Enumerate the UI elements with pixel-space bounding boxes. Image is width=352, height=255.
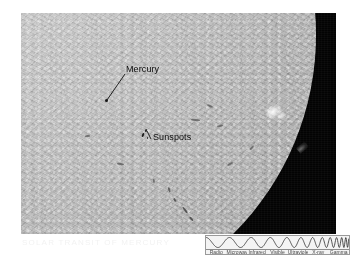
- sunspots-leader-line: [147, 131, 151, 139]
- spectrum-label: Radio: [206, 249, 226, 255]
- spectrum-label: Microwave: [226, 249, 246, 255]
- mercury-label: Mercury: [126, 64, 159, 74]
- spectrum-wave-chart: [206, 236, 349, 249]
- spectrum-label: X-ray: [308, 249, 328, 255]
- spectrum-wave-path: [206, 238, 349, 248]
- solar-photograph: Mercury Sunspots: [21, 13, 336, 234]
- spectrum-label: Visible: [267, 249, 287, 255]
- spectrum-label: Infrared: [247, 249, 267, 255]
- spectrum-label: Gamma: [329, 249, 349, 255]
- spectrum-label: Ultraviolet: [288, 249, 308, 255]
- page-root: Mercury Sunspots SOLAR TRANSIT OF MERCUR…: [0, 0, 352, 255]
- photo-caption: SOLAR TRANSIT OF MERCURY: [22, 237, 212, 249]
- annotation-leader-lines: [21, 13, 336, 234]
- spectrum-axis-labels: Radio Microwave Infrared Visible Ultravi…: [206, 249, 349, 255]
- electromagnetic-spectrum-inset: Radio Microwave Infrared Visible Ultravi…: [205, 235, 350, 255]
- sunspots-label: Sunspots: [153, 132, 191, 142]
- mercury-leader-line: [107, 74, 125, 100]
